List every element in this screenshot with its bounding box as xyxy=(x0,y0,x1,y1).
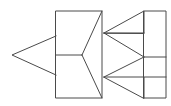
geometric-line-drawing xyxy=(0,0,171,106)
drawing-background xyxy=(0,0,171,106)
